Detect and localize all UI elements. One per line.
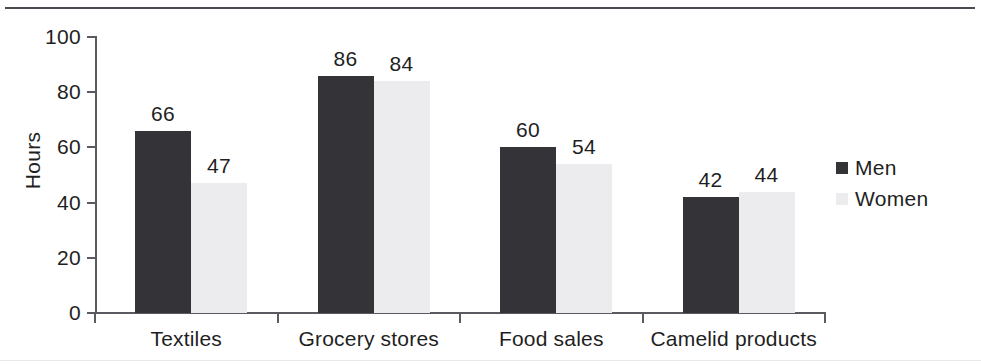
y-axis-tick-label-wrap: 0 [33,302,81,323]
bar-women[interactable] [374,81,430,313]
legend-label-women: Women [855,188,928,209]
women-swatch-icon [836,193,848,205]
y-axis-tick-label: 80 [33,81,81,102]
bottom-edge-rule [0,360,981,361]
bar-value-label: 44 [739,164,795,185]
y-axis-tick-label-wrap: 80 [33,81,81,102]
bar-men[interactable] [683,197,739,313]
bar-value-label: 60 [500,119,556,140]
x-axis-tick [824,313,826,323]
y-axis-tick-label-wrap: 40 [33,192,81,213]
y-axis-tick [87,36,96,38]
x-axis-tick [94,313,96,323]
y-axis-tick-label: 100 [33,26,81,47]
y-axis-tick-label: 60 [33,136,81,157]
bar-value-label: 42 [683,169,739,190]
y-axis-line [95,36,97,314]
bar-value-label: 66 [135,103,191,124]
legend-label-men: Men [855,157,897,178]
y-axis-tick-label: 40 [33,192,81,213]
legend-item-women[interactable]: Women [836,183,928,214]
y-axis-tick [87,146,96,148]
y-axis-tick-label-wrap: 100 [33,26,81,47]
x-axis-category-label: Textiles [95,328,278,350]
bar-value-label: 47 [191,155,247,176]
bar-men[interactable] [500,147,556,313]
bar-men[interactable] [135,131,191,313]
x-axis-category-label: Food sales [460,328,643,350]
bar-women[interactable] [191,183,247,313]
y-axis-tick-label: 0 [33,302,81,323]
legend-item-men[interactable]: Men [836,152,928,183]
y-axis-tick [87,257,96,259]
men-swatch-icon [836,162,848,174]
y-axis-tick-label-wrap: 60 [33,136,81,157]
y-axis-tick-label-wrap: 20 [33,247,81,268]
y-axis-tick [87,202,96,204]
x-axis-category-label: Camelid products [643,328,826,350]
bar-women[interactable] [739,192,795,313]
bar-value-label: 54 [556,136,612,157]
bar-value-label: 84 [374,53,430,74]
bar-women[interactable] [556,164,612,313]
bar-value-label: 86 [318,48,374,69]
x-axis-tick [642,313,644,323]
grouped-bar-chart: Hours 020406080100 6647868460544244 Text… [0,0,981,364]
chart-legend: Men Women [836,152,928,214]
bar-men[interactable] [318,76,374,313]
x-axis-tick [459,313,461,323]
y-axis-tick [87,91,96,93]
x-axis-category-label: Grocery stores [278,328,461,350]
y-axis-tick-label: 20 [33,247,81,268]
x-axis-tick [277,313,279,323]
